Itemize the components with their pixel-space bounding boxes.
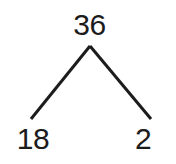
factor-node-left: 18 xyxy=(0,124,66,154)
branch-right xyxy=(90,46,151,119)
factor-tree-diagram: 36 18 2 xyxy=(0,0,176,164)
factor-node-right: 2 xyxy=(118,124,168,154)
branch-left xyxy=(31,46,90,119)
factor-node-root: 36 xyxy=(3,10,176,40)
